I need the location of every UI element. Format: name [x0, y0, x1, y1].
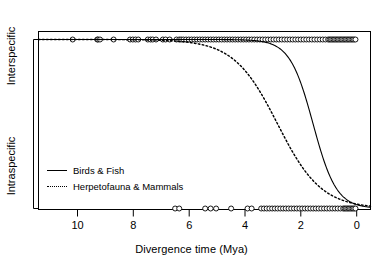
data-point [229, 206, 234, 211]
legend-label-birds-and-fish: Birds & Fish [73, 165, 124, 176]
data-point [353, 37, 358, 42]
y-axis-label-intraspecific: Intraspecific [5, 121, 17, 211]
x-axis-title: Divergence time (Mya) [0, 243, 383, 255]
legend-label-herpetofauna-and-mammals: Herpetofauna & Mammals [73, 181, 183, 192]
x-tick-label-6: 6 [176, 219, 202, 231]
legend-item-birds-and-fish: Birds & Fish [46, 162, 183, 178]
data-point [249, 206, 254, 211]
x-tick-label-8: 8 [120, 219, 146, 231]
x-tick-label-10: 10 [65, 219, 91, 231]
data-point [353, 206, 358, 211]
legend-key-solid-line-icon [46, 165, 68, 175]
data-point [208, 206, 213, 211]
legend: Birds & Fish Herpetofauna & Mammals [46, 162, 183, 194]
data-point [203, 206, 208, 211]
x-tick-label-0: 0 [344, 219, 370, 231]
legend-item-herpetofauna-and-mammals: Herpetofauna & Mammals [46, 178, 183, 194]
y-axis-label-interspecific: Interspecific [5, 11, 17, 101]
x-tick-label-4: 4 [232, 219, 258, 231]
logistic-regression-figure: 10 8 6 4 2 0 Divergence time (Mya) Inter… [0, 0, 383, 268]
x-tick-label-2: 2 [288, 219, 314, 231]
rug-intraspecific [173, 206, 358, 211]
legend-key-dotted-line-icon [46, 181, 68, 191]
data-point [177, 206, 182, 211]
y-axis [34, 40, 39, 209]
data-point [214, 206, 219, 211]
